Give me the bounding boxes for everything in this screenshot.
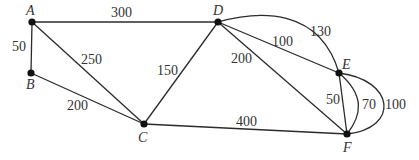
label-d: D (212, 3, 223, 18)
label-b: B (26, 77, 35, 92)
edge-a-b (31, 22, 32, 73)
node-c (140, 120, 147, 127)
edge-e-f-inner-curve (339, 73, 358, 134)
weight-a-c: 250 (81, 52, 102, 67)
label-c: C (138, 130, 148, 145)
weight-c-f: 400 (236, 114, 257, 129)
node-d (214, 18, 221, 25)
edge-c-d (144, 22, 218, 124)
weight-a-b: 50 (12, 39, 26, 54)
weight-a-d: 300 (111, 5, 132, 20)
weight-e-f-outer: 100 (385, 97, 406, 112)
weight-e-f-straight: 50 (326, 92, 340, 107)
node-f (343, 130, 350, 137)
weight-d-e-straight: 100 (272, 34, 293, 49)
weighted-graph-diagram: 300 50 250 200 150 400 100 130 200 50 70… (0, 0, 419, 160)
node-a (28, 18, 35, 25)
label-f: F (342, 140, 352, 155)
weight-c-d: 150 (157, 63, 178, 78)
edge-a-c (32, 22, 144, 124)
edge-e-f-straight (339, 73, 347, 134)
weight-d-e-arc: 130 (310, 24, 331, 39)
weight-d-f: 200 (231, 51, 252, 66)
weight-e-f-inner: 70 (362, 97, 376, 112)
node-b (27, 69, 34, 76)
nodes (27, 18, 350, 137)
edges (31, 15, 384, 134)
label-a: A (25, 3, 35, 18)
label-e: E (341, 57, 351, 72)
weight-b-c: 200 (67, 98, 88, 113)
